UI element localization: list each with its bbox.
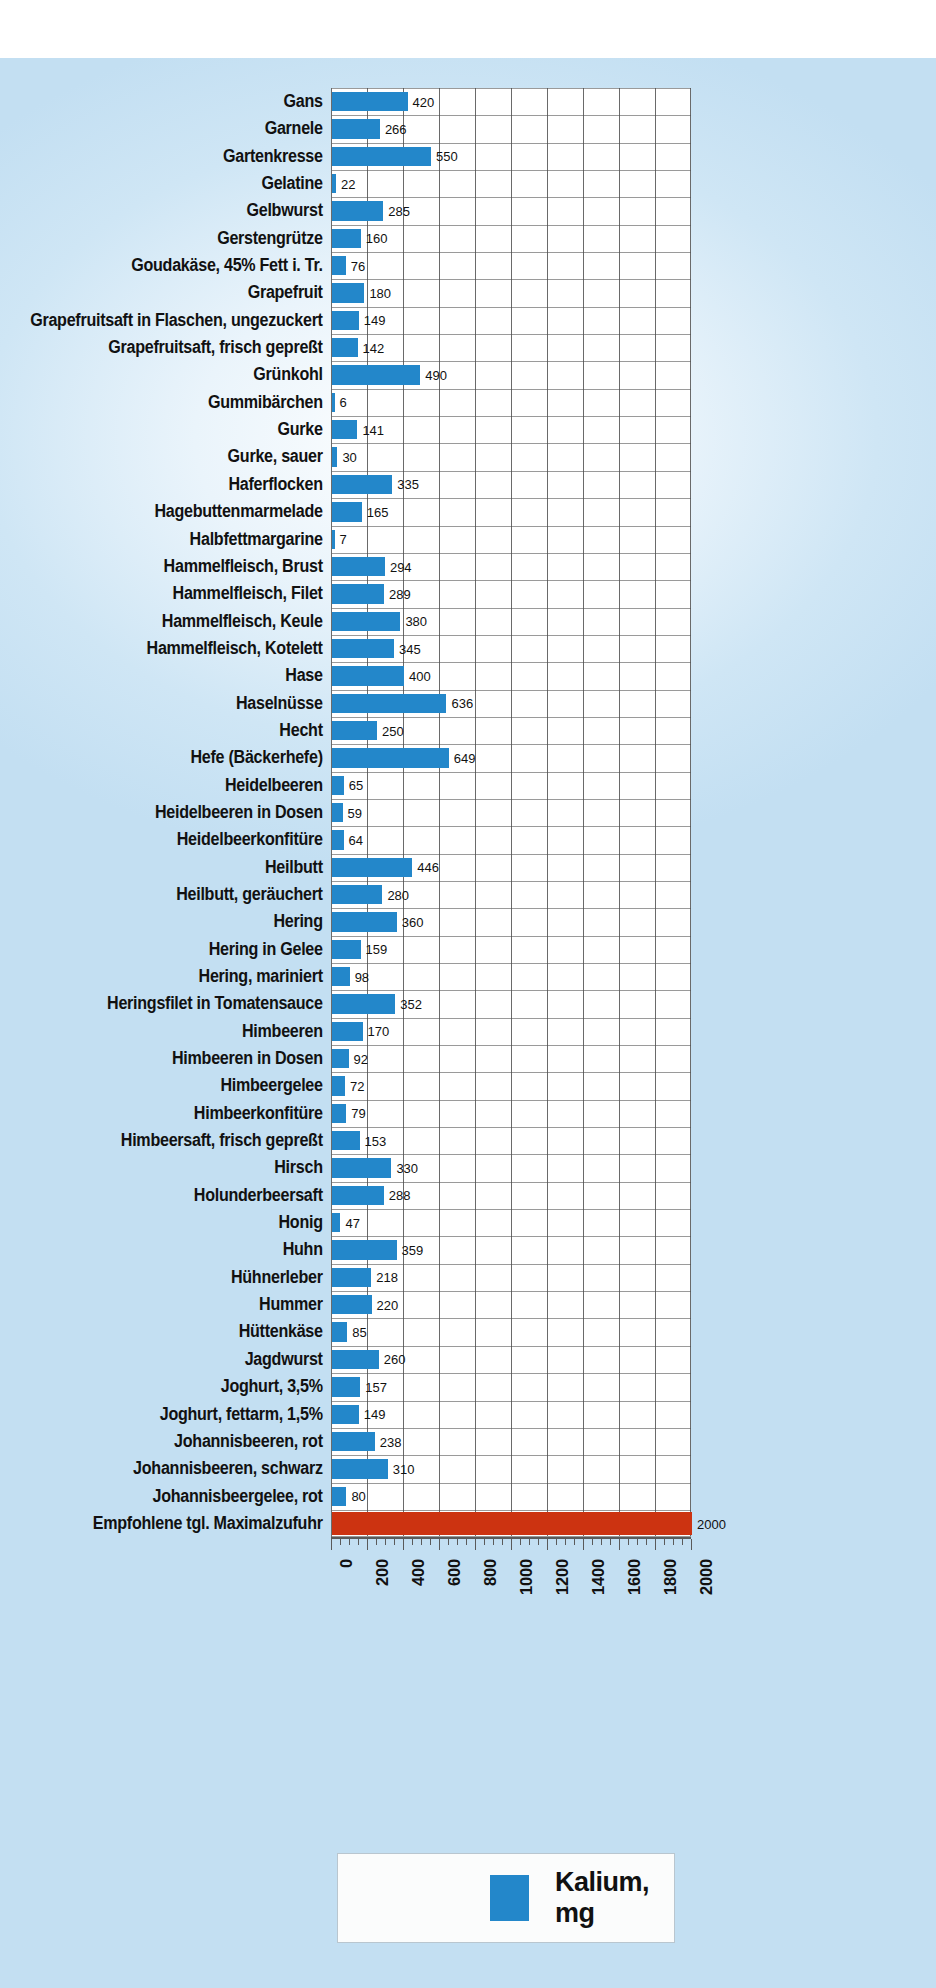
axis-tick-label: 1800	[661, 1559, 680, 1595]
value-bar	[332, 940, 361, 959]
category-label: Gurke, sauer	[26, 443, 331, 470]
category-label: Gans	[26, 88, 331, 115]
bar-track: 159	[331, 936, 691, 963]
category-label: Empfohlene tgl. Maximalzufuhr	[26, 1510, 331, 1537]
category-label: Heringsfilet in Tomatensauce	[26, 990, 331, 1017]
axis-tick	[493, 1539, 494, 1545]
bar-track: 446	[331, 854, 691, 881]
bar-track: 288	[331, 1182, 691, 1209]
chart-row: Gelatine22	[0, 170, 936, 197]
chart-row: Gurke141	[0, 416, 936, 443]
category-label: Johannisbeeren, schwarz	[26, 1455, 331, 1482]
chart-row: Himbeeren170	[0, 1018, 936, 1045]
bar-track: 359	[331, 1236, 691, 1263]
bar-track: 260	[331, 1346, 691, 1373]
bar-track: 47	[331, 1209, 691, 1236]
value-bar	[332, 858, 412, 877]
category-label: Heilbutt	[26, 854, 331, 881]
top-white-margin	[0, 0, 936, 58]
value-label: 72	[345, 1079, 364, 1094]
value-label: 47	[340, 1215, 359, 1230]
bar-track: 157	[331, 1373, 691, 1400]
bar-track: 170	[331, 1018, 691, 1045]
category-label: Heilbutt, geräuchert	[26, 881, 331, 908]
category-label: Johannisbeergelee, rot	[26, 1483, 331, 1510]
value-bar	[332, 666, 404, 685]
value-bar	[332, 885, 382, 904]
value-label: 649	[449, 750, 476, 765]
chart-row: Himbeergelee72	[0, 1072, 936, 1099]
chart-row: Halbfettmargarine7	[0, 526, 936, 553]
value-label: 159	[361, 942, 388, 957]
bar-track: 59	[331, 799, 691, 826]
value-bar	[332, 584, 384, 603]
chart-row: Holunderbeersaft288	[0, 1182, 936, 1209]
grid-lines	[332, 416, 691, 443]
category-label: Hammelfleisch, Brust	[26, 553, 331, 580]
axis-tick	[484, 1539, 485, 1545]
axis-tick	[664, 1539, 665, 1545]
value-label: 30	[337, 450, 356, 465]
chart-row: Gerstengrütze160	[0, 225, 936, 252]
axis-tick	[403, 1539, 404, 1550]
value-bar	[332, 92, 408, 111]
value-label: 400	[404, 668, 431, 683]
axis-tick	[592, 1539, 593, 1545]
value-bar	[332, 557, 385, 576]
bar-track: 335	[331, 471, 691, 498]
value-label: 149	[359, 1407, 386, 1422]
axis-tick	[448, 1539, 449, 1545]
value-label: 359	[397, 1243, 424, 1258]
bar-track: 310	[331, 1455, 691, 1482]
value-label: 289	[384, 586, 411, 601]
chart-row: Gurke, sauer30	[0, 443, 936, 470]
category-label: Hummer	[26, 1291, 331, 1318]
value-bar	[332, 1322, 347, 1341]
value-label: 266	[380, 122, 407, 137]
axis-tick	[421, 1539, 422, 1545]
bar-track: 294	[331, 553, 691, 580]
value-bar	[332, 475, 392, 494]
value-bar	[332, 147, 431, 166]
category-label: Himbeersaft, frisch gepreßt	[26, 1127, 331, 1154]
axis-tick	[511, 1539, 512, 1550]
value-label: 80	[346, 1489, 365, 1504]
category-label: Gurke	[26, 416, 331, 443]
category-label: Heidelbeeren in Dosen	[26, 799, 331, 826]
axis-tick-label: 1600	[625, 1559, 644, 1595]
axis-tick	[385, 1539, 386, 1545]
category-label: Jagdwurst	[26, 1346, 331, 1373]
chart-row: Johannisbeeren, schwarz310	[0, 1455, 936, 1482]
bar-track: 218	[331, 1264, 691, 1291]
axis-tick	[628, 1539, 629, 1545]
category-label: Gummibärchen	[26, 389, 331, 416]
chart-row: Grapefruitsaft, frisch gepreßt142	[0, 334, 936, 361]
value-label: 7	[335, 532, 347, 547]
chart-row: Heidelbeeren in Dosen59	[0, 799, 936, 826]
value-label: 142	[358, 340, 385, 355]
value-label: 294	[385, 559, 412, 574]
bar-track: 330	[331, 1154, 691, 1181]
axis-tick	[574, 1539, 575, 1545]
category-label: Huhn	[26, 1236, 331, 1263]
axis-tick	[601, 1539, 602, 1545]
chart-row: Himbeeren in Dosen92	[0, 1045, 936, 1072]
axis-tick	[358, 1539, 359, 1545]
value-label: 160	[361, 231, 388, 246]
axis-tick-label: 800	[481, 1559, 500, 1586]
value-label: 64	[344, 832, 363, 847]
value-label: 165	[362, 504, 389, 519]
axis-tick	[610, 1539, 611, 1545]
bar-track: 141	[331, 416, 691, 443]
grid-lines	[332, 252, 691, 279]
value-bar	[332, 1131, 360, 1150]
chart-row: Grünkohl490	[0, 361, 936, 388]
value-bar	[332, 912, 397, 931]
category-label: Hagebuttenmarmelade	[26, 498, 331, 525]
axis-tick	[556, 1539, 557, 1545]
axis-tick	[691, 1539, 692, 1550]
value-label: 280	[382, 887, 409, 902]
category-label: Hammelfleisch, Keule	[26, 608, 331, 635]
legend-swatch-kalium	[490, 1875, 529, 1921]
value-bar	[332, 1213, 340, 1232]
